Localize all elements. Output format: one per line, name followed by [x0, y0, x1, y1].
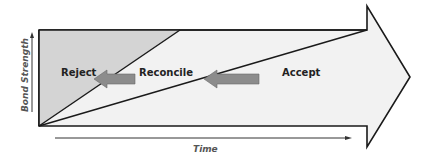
- accept-label: Accept: [282, 67, 321, 78]
- y-axis-arrowhead-icon: [30, 32, 34, 38]
- x-axis-label: Time: [193, 144, 218, 154]
- x-axis-arrowhead-icon: [345, 136, 352, 140]
- reject-label: Reject: [61, 67, 97, 78]
- diagram-canvas: Reject Reconcile Accept Bond Strength Ti…: [0, 0, 430, 161]
- y-axis-label: Bond Strength: [20, 38, 30, 112]
- reconcile-label: Reconcile: [139, 67, 193, 78]
